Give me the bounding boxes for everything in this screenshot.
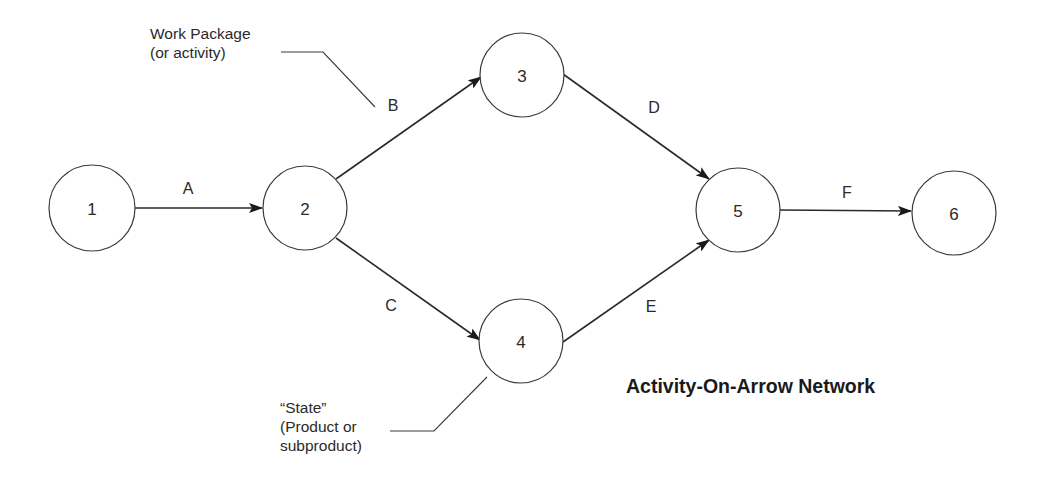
node-1: 1 <box>49 165 135 251</box>
node-6-label: 6 <box>949 205 958 224</box>
edge-c-label: C <box>385 297 397 314</box>
work-package-leader-line <box>281 52 375 107</box>
annotation-work-package-line1: Work Package <box>150 25 251 42</box>
diagram-title: Activity-On-Arrow Network <box>626 375 875 397</box>
node-1-label: 1 <box>87 200 96 219</box>
activity-on-arrow-diagram: A B C D E F 1 2 <box>0 0 1046 487</box>
annotation-work-package-line2: (or activity) <box>150 44 226 61</box>
node-2: 2 <box>263 166 347 250</box>
node-3: 3 <box>480 33 564 117</box>
annotation-state: “State” (Product or subproduct) <box>280 377 487 454</box>
edge-d: D <box>563 74 709 179</box>
node-2-label: 2 <box>300 200 309 219</box>
node-5-label: 5 <box>733 202 742 221</box>
annotation-state-line3: subproduct) <box>280 437 362 454</box>
edge-f-label: F <box>842 184 852 201</box>
edge-b-arrow <box>336 77 481 179</box>
annotation-work-package: Work Package (or activity) <box>150 25 375 107</box>
edge-e-label: E <box>646 298 657 315</box>
node-3-label: 3 <box>517 67 526 86</box>
state-leader-line <box>390 377 487 431</box>
edge-b-label: B <box>388 97 399 114</box>
node-6: 6 <box>912 171 996 255</box>
edge-c: C <box>336 238 480 340</box>
node-4-label: 4 <box>516 333 525 352</box>
edge-e: E <box>563 240 709 342</box>
edge-e-arrow <box>563 240 709 342</box>
edge-d-arrow <box>563 74 709 179</box>
edge-f-arrow <box>780 210 911 211</box>
node-5: 5 <box>696 168 780 252</box>
edge-a-label: A <box>183 180 194 197</box>
annotation-state-line2: (Product or <box>280 418 357 435</box>
edge-d-label: D <box>648 99 660 116</box>
annotation-state-line1: “State” <box>280 399 327 416</box>
edge-f: F <box>780 184 911 212</box>
edge-b: B <box>336 77 481 179</box>
edge-a: A <box>135 180 262 209</box>
edge-c-arrow <box>336 238 480 340</box>
node-4: 4 <box>479 299 563 383</box>
